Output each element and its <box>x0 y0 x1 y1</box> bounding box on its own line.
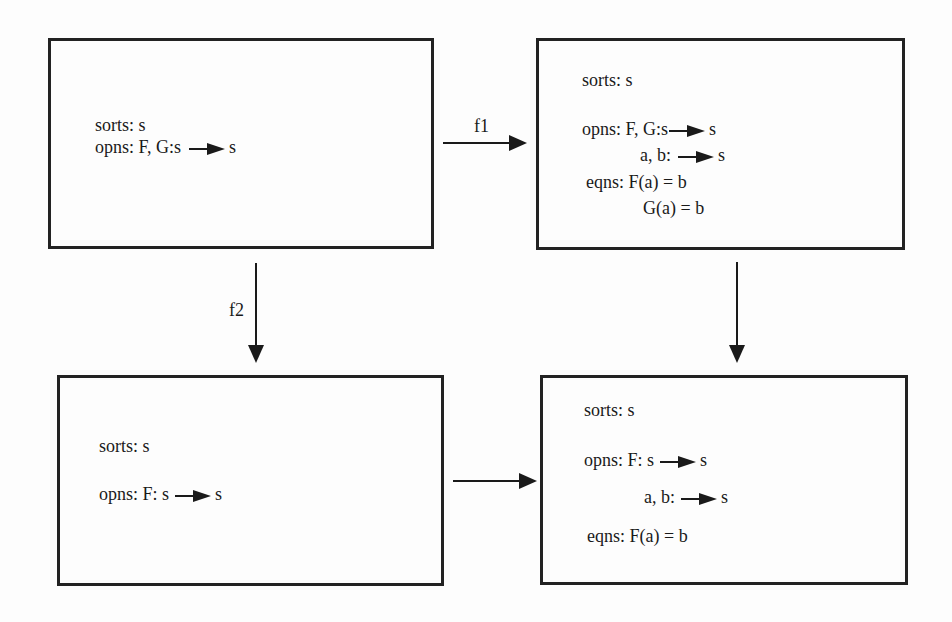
top-left-sorts: sorts: s <box>95 115 146 135</box>
maps-to-arrow-icon <box>175 490 211 502</box>
bottom-right-opns1-codomain: s <box>700 450 707 470</box>
top-left-opns: opns: F, G:ss <box>95 137 236 157</box>
bottom-left-opns: opns: F: ss <box>99 484 222 504</box>
signature-box-bottom-left <box>57 375 444 586</box>
bottom-right-opns-1: opns: F: ss <box>584 450 707 470</box>
top-right-eqns-2: G(a) = b <box>643 198 704 218</box>
arrowhead-right-icon <box>509 135 527 151</box>
top-right-opns2-domain: a, b: <box>640 145 671 165</box>
top-right-sorts: sorts: s <box>582 70 633 90</box>
arrow-shaft <box>453 480 521 482</box>
morphism-arrow-right-down <box>729 262 745 363</box>
maps-to-arrow-icon <box>681 493 717 505</box>
bottom-right-opns-2: a, b:s <box>644 487 728 507</box>
arrow-shaft <box>443 142 511 144</box>
morphism-arrow-f2 <box>248 263 264 363</box>
morphism-arrow-f1 <box>443 135 527 151</box>
bottom-left-sorts: sorts: s <box>99 436 150 456</box>
bottom-right-opns2-codomain: s <box>721 487 728 507</box>
top-right-opns-2: a, b:s <box>640 145 725 165</box>
top-left-opns-domain: opns: F, G:s <box>95 137 181 157</box>
top-right-opns-1: opns: F, G:ss <box>582 119 716 139</box>
maps-to-arrow-icon <box>660 456 696 468</box>
top-left-opns-codomain: s <box>229 137 236 157</box>
top-right-opns1-domain: opns: F, G:s <box>582 119 668 139</box>
arrow-shaft <box>255 263 257 347</box>
bottom-right-opns2-domain: a, b: <box>644 487 675 507</box>
top-right-opns1-codomain: s <box>709 119 716 139</box>
bottom-right-eqns-1: eqns: F(a) = b <box>587 526 688 546</box>
morphism-arrow-bottom <box>453 473 537 489</box>
edge-label-f1: f1 <box>474 116 489 136</box>
maps-to-arrow-icon <box>669 125 705 137</box>
arrow-shaft <box>736 262 738 347</box>
top-right-eqns-1: eqns: F(a) = b <box>586 172 687 192</box>
maps-to-arrow-icon <box>678 151 714 163</box>
bottom-right-sorts: sorts: s <box>584 400 635 420</box>
edge-label-f2: f2 <box>229 300 244 320</box>
arrowhead-down-icon <box>248 345 264 363</box>
maps-to-arrow-icon <box>189 143 225 155</box>
bottom-right-opns1-domain: opns: F: s <box>584 450 654 470</box>
bottom-left-opns-domain: opns: F: s <box>99 484 169 504</box>
top-right-opns2-codomain: s <box>718 145 725 165</box>
arrowhead-down-icon <box>729 345 745 363</box>
bottom-left-opns-codomain: s <box>215 484 222 504</box>
arrowhead-right-icon <box>519 473 537 489</box>
